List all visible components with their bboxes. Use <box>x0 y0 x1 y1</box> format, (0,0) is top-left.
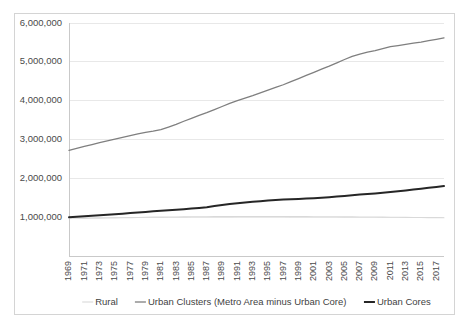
x-tick-label: 1969 <box>63 261 73 281</box>
y-axis-tick-labels: 1,000,0002,000,0003,000,0004,000,0005,00… <box>20 17 62 222</box>
chart-container: 1,000,0002,000,0003,000,0004,000,0005,00… <box>14 13 455 315</box>
x-tick-label: 1987 <box>201 261 211 281</box>
line-chart: 1,000,0002,000,0003,000,0004,000,0005,00… <box>15 14 456 316</box>
x-tick-label: 1983 <box>171 261 181 281</box>
y-tick-label: 2,000,000 <box>20 172 62 183</box>
x-tick-label: 2003 <box>324 261 334 281</box>
x-tick-label: 1997 <box>278 261 288 281</box>
x-tick-label: 2011 <box>385 261 395 280</box>
x-tick-label: 1981 <box>155 261 165 281</box>
y-tick-label: 6,000,000 <box>20 17 62 28</box>
x-tick-label: 2015 <box>415 261 425 281</box>
x-tick-label: 2005 <box>339 261 349 281</box>
x-tick-label: 1991 <box>232 261 242 281</box>
x-tick-label: 1989 <box>216 261 226 281</box>
x-tick-label: 2017 <box>431 261 441 281</box>
x-tick-label: 1971 <box>79 261 89 281</box>
x-axis-tick-labels: 1969197119731975197719791981198319851987… <box>63 261 440 281</box>
gridlines <box>69 23 444 217</box>
y-tick-label: 4,000,000 <box>20 94 62 105</box>
series-line-urban-clusters-metro-area-minus-urban-core <box>69 38 444 150</box>
x-tick-label: 2013 <box>400 261 410 281</box>
x-tick-label: 2001 <box>308 261 318 281</box>
data-series <box>69 38 444 218</box>
x-tick-label: 1973 <box>94 261 104 281</box>
y-tick-label: 1,000,000 <box>20 211 62 222</box>
x-tick-label: 1999 <box>293 261 303 281</box>
x-tick-label: 1977 <box>125 261 135 281</box>
x-tick-label: 1993 <box>247 261 257 281</box>
x-tick-label: 1995 <box>262 261 272 281</box>
x-tick-label: 1975 <box>109 261 119 281</box>
x-tick-label: 2009 <box>369 261 379 281</box>
y-tick-label: 3,000,000 <box>20 133 62 144</box>
y-tick-label: 5,000,000 <box>20 55 62 66</box>
legend-label-urban-clusters-metro-area-minus-urban-core[interactable]: Urban Clusters (Metro Area minus Urban C… <box>148 296 347 307</box>
x-tick-label: 1979 <box>140 261 150 281</box>
legend-label-rural[interactable]: Rural <box>95 296 118 307</box>
series-line-urban-cores <box>69 186 444 217</box>
chart-legend[interactable]: RuralUrban Clusters (Metro Area minus Ur… <box>82 296 431 307</box>
legend-label-urban-cores[interactable]: Urban Cores <box>377 296 431 307</box>
x-tick-label: 1985 <box>186 261 196 281</box>
x-tick-label: 2007 <box>354 261 364 281</box>
